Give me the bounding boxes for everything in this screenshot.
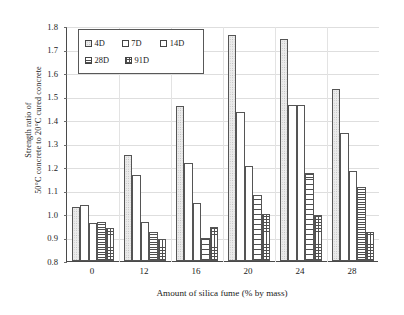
x-axis-tick-label: 24 <box>296 266 305 276</box>
bar-14d <box>349 171 358 261</box>
legend-swatch-28d <box>85 57 92 64</box>
bar-91d <box>210 227 219 261</box>
bar-7d <box>236 112 245 261</box>
legend-item-28d: 28D <box>85 56 125 65</box>
legend-row-2: 28D 91D <box>85 52 197 69</box>
bar-28d <box>201 238 210 262</box>
bar-7d <box>184 163 193 261</box>
bar-7d <box>288 105 297 261</box>
legend-label-28d: 28D <box>95 56 109 65</box>
x-axis-tick-label: 28 <box>348 266 357 276</box>
bar-4d <box>280 39 289 261</box>
legend-item-14d: 14D <box>160 39 197 48</box>
bar-28d <box>149 232 158 261</box>
legend-swatch-91d <box>125 57 132 64</box>
bar-28d <box>357 187 366 261</box>
bar-28d <box>97 222 106 261</box>
x-axis-title: Amount of silica fume (% by mass) <box>66 288 378 298</box>
legend: 4D 7D 14D 28D 91D <box>78 29 204 74</box>
bar-14d <box>141 222 150 261</box>
bar-28d <box>305 173 314 261</box>
bar-28d <box>253 195 262 261</box>
legend-label-91d: 91D <box>135 56 149 65</box>
legend-label-7d: 7D <box>131 39 141 48</box>
bar-chart: Strength ratio of 50°C concrete to 20°C … <box>0 0 404 315</box>
legend-item-4d: 4D <box>85 39 122 48</box>
x-axis-tick-label: 0 <box>90 266 95 276</box>
bar-group <box>223 26 275 261</box>
x-axis-tick-labels: 01216202428 <box>66 266 378 280</box>
bar-4d <box>72 207 81 261</box>
legend-swatch-7d <box>122 40 129 47</box>
bar-14d <box>245 166 254 261</box>
bar-14d <box>193 203 202 261</box>
legend-swatch-4d <box>85 40 92 47</box>
bar-7d <box>340 133 349 261</box>
bar-14d <box>297 105 306 261</box>
y-axis-tick-mark <box>64 262 67 263</box>
bar-4d <box>332 89 341 261</box>
legend-item-7d: 7D <box>122 39 161 48</box>
bar-91d <box>314 215 323 261</box>
bar-91d <box>106 228 115 261</box>
x-axis-tick-label: 20 <box>244 266 253 276</box>
legend-item-91d: 91D <box>125 56 167 65</box>
bar-4d <box>228 35 237 261</box>
bar-group <box>327 26 379 261</box>
x-axis-tick-label: 12 <box>140 266 149 276</box>
y-axis-tick-label: 0.8 <box>22 257 58 267</box>
y-axis-title: Strength ratio of 50°C concrete to 20°C … <box>24 30 44 230</box>
bar-4d <box>176 106 185 261</box>
legend-swatch-14d <box>160 40 167 47</box>
bar-91d <box>366 232 375 261</box>
bar-14d <box>89 223 98 261</box>
y-axis-title-line2: 50°C concrete to 20°C cured concrete <box>34 30 44 230</box>
bar-7d <box>80 205 89 261</box>
bar-91d <box>262 214 271 261</box>
y-axis-tick-label: 0.9 <box>22 233 58 243</box>
bar-7d <box>132 175 141 261</box>
bar-4d <box>124 155 133 261</box>
legend-row-1: 4D 7D 14D <box>85 35 197 52</box>
legend-label-14d: 14D <box>170 39 184 48</box>
bar-group <box>275 26 327 261</box>
x-axis-tick-label: 16 <box>192 266 201 276</box>
legend-label-4d: 4D <box>95 39 105 48</box>
bar-91d <box>158 239 167 261</box>
y-axis-title-line1: Strength ratio of <box>24 30 34 230</box>
